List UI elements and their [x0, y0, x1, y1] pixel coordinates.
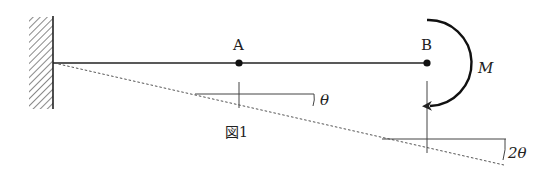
moment-arrow-icon: [427, 20, 472, 106]
wall-hatch: [29, 17, 53, 109]
fixed-support-wall: [29, 16, 53, 109]
point-b-dot: [423, 59, 430, 66]
point-a-label: A: [233, 38, 244, 53]
figure-caption: 図1: [225, 125, 248, 139]
angle-arc-b: [503, 139, 505, 160]
angle-arc-a: [313, 94, 314, 106]
deflection-line: [54, 63, 504, 165]
angle-2theta-marker: [382, 81, 506, 160]
moment-label: M: [478, 61, 493, 76]
angle-theta-marker: [195, 82, 314, 108]
cantilever-beam-diagram: [0, 0, 543, 171]
point-a-dot: [235, 59, 242, 66]
two-theta-label: 2θ: [508, 146, 527, 161]
point-b-label: B: [421, 38, 432, 53]
theta-label: θ: [320, 93, 329, 108]
